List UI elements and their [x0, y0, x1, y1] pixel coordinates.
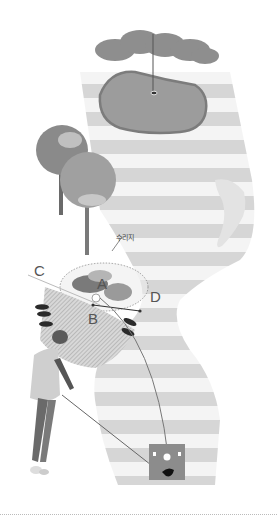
point-b-label: B: [88, 310, 98, 327]
tree-line-icon: [95, 30, 219, 64]
ground-under-repair-label: 수리지: [116, 232, 134, 242]
point-d-label: D: [150, 288, 161, 305]
point-c-label: C: [34, 262, 45, 279]
golf-hole-diagram: [0, 0, 277, 518]
hole-cup: [151, 91, 157, 95]
point-a-label: A: [97, 275, 107, 292]
bottom-divider: [0, 514, 277, 515]
ball-marker-icon: [92, 294, 100, 302]
